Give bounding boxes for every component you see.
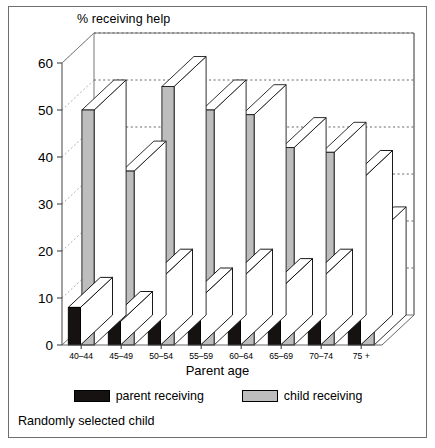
y-tick-label: 10 [38,291,53,306]
legend-swatch-parent-receiving [74,390,110,402]
x-tick-label: 60–64 [229,351,253,361]
bars-group [68,57,406,346]
chart-legend: parent receiving child receiving [18,386,418,406]
y-tick-label: 30 [38,197,53,212]
bar-chart-canvas: 0102030405060 40–4445–4950–5455–5960–646… [0,0,435,448]
bar-parent-receiving-0 [68,277,112,345]
x-tick-label: 65–69 [269,351,293,361]
legend-entry-child-receiving: child receiving [242,390,363,402]
legend-swatch-child-receiving [242,390,278,402]
chart-title: % receiving help [77,12,170,26]
x-tick-label: 70–74 [309,351,333,361]
y-tick-label: 40 [38,150,53,165]
x-tick-label: 75 + [353,351,370,361]
x-tick-label: 45–49 [109,351,133,361]
x-tick-label: 50–54 [149,351,173,361]
x-tick-label: 40–44 [69,351,93,361]
x-tick-label: 55–59 [189,351,213,361]
y-tick-label: 50 [38,103,53,118]
x-axis-title: Parent age [0,363,435,378]
y-axis: 0102030405060 [38,56,62,353]
figure-caption: Randomly selected child [18,414,155,428]
figure-root: 0102030405060 40–4445–4950–5455–5960–646… [0,0,435,448]
y-tick-label: 20 [38,244,53,259]
legend-label-child-receiving: child receiving [284,390,363,402]
legend-entry-parent-receiving: parent receiving [74,390,204,402]
y-tick-label: 60 [38,56,53,71]
x-axis-ticks: 40–4445–4950–5455–5960–6465–6970–7475 + [69,345,369,361]
y-tick-label: 0 [45,338,53,353]
legend-label-parent-receiving: parent receiving [116,390,204,402]
